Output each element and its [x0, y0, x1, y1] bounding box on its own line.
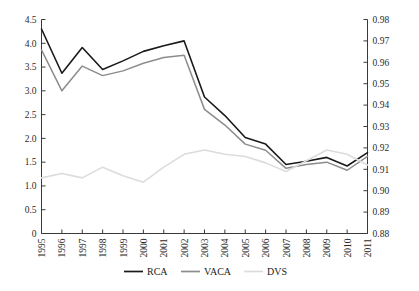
- legend-label-dvs: DVS: [267, 266, 287, 277]
- x-axis-tick-label: 1997: [78, 238, 88, 257]
- right-y-axis: 0.880.890.900.910.920.930.940.950.960.97…: [364, 15, 390, 239]
- x-axis-tick-label: 2002: [180, 238, 190, 257]
- x-axis-tick-label: 2008: [302, 238, 312, 257]
- series-line-rca: [42, 29, 368, 166]
- x-axis-tick-label: 2011: [363, 238, 373, 257]
- left-axis-tick-label: 1.0: [25, 181, 37, 191]
- left-axis-tick-label: 0.5: [25, 205, 37, 215]
- left-axis-tick-label: 2.0: [25, 134, 37, 144]
- x-axis-tick-label: 2004: [220, 238, 230, 257]
- left-axis-tick-label: 4.0: [25, 39, 37, 49]
- right-axis-tick-label: 0.96: [373, 58, 390, 68]
- right-axis-tick-label: 0.91: [373, 165, 390, 175]
- legend-label-vaca: VACA: [204, 266, 232, 277]
- x-axis-tick-label: 2010: [343, 238, 353, 257]
- chart-legend: RCAVACADVS: [124, 266, 287, 277]
- left-axis-tick-label: 3.0: [25, 86, 37, 96]
- series-line-dvs: [42, 150, 368, 182]
- right-axis-tick-label: 0.89: [373, 207, 390, 217]
- x-axis-tick-label: 2005: [241, 238, 251, 257]
- x-axis-tick-label: 2007: [282, 238, 292, 257]
- right-axis-tick-label: 0.88: [373, 229, 390, 239]
- x-axis-tick-label: 2003: [200, 238, 210, 257]
- right-axis-tick-label: 0.92: [373, 143, 390, 153]
- legend-label-rca: RCA: [147, 266, 168, 277]
- x-axis-tick-label: 2001: [159, 238, 169, 257]
- left-y-axis: 00.51.01.52.02.53.03.54.04.5: [25, 15, 46, 239]
- series-lines: [42, 29, 368, 182]
- right-axis-tick-label: 0.95: [373, 79, 390, 89]
- right-axis-tick-label: 0.93: [373, 122, 390, 132]
- x-axis-tick-label: 2000: [139, 238, 149, 257]
- x-axis-tick-label: 2009: [322, 238, 332, 257]
- right-axis-tick-label: 0.94: [373, 100, 390, 110]
- x-axis-tick-label: 1999: [119, 238, 129, 257]
- x-axis-tick-label: 2006: [261, 238, 271, 257]
- left-axis-tick-label: 3.5: [25, 62, 37, 72]
- chart-container: 00.51.01.52.02.53.03.54.04.5 0.880.890.9…: [0, 0, 419, 291]
- right-axis-tick-label: 0.98: [373, 15, 390, 25]
- line-chart: 00.51.01.52.02.53.03.54.04.5 0.880.890.9…: [0, 0, 419, 291]
- left-axis-tick-label: 0: [32, 229, 37, 239]
- series-line-vaca: [42, 50, 368, 170]
- left-axis-tick-label: 4.5: [25, 15, 37, 25]
- right-axis-tick-label: 0.97: [373, 36, 390, 46]
- left-axis-tick-label: 2.5: [25, 110, 37, 120]
- x-axis-tick-label: 1995: [37, 238, 47, 257]
- x-axis-tick-label: 1996: [57, 238, 67, 257]
- x-axis: 1995199619971998199920002001200220032004…: [37, 230, 373, 258]
- right-axis-tick-label: 0.90: [373, 186, 390, 196]
- x-axis-tick-label: 1998: [98, 238, 108, 257]
- left-axis-tick-label: 1.5: [25, 157, 37, 167]
